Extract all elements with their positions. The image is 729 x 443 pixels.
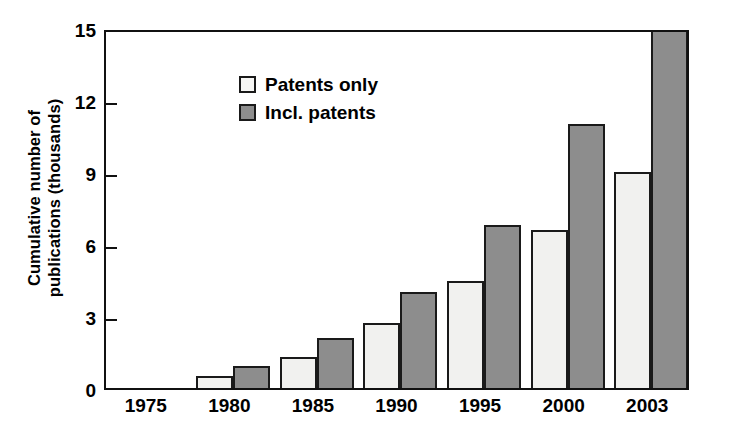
y-axis-title-line1: Cumulative number of bbox=[24, 110, 44, 286]
bar-group bbox=[607, 32, 689, 388]
bar-group bbox=[524, 32, 608, 388]
plot-area: Patents onlyIncl. patents bbox=[104, 30, 689, 390]
y-axis-tick-label: 15 bbox=[56, 21, 96, 40]
legend-label: Patents only bbox=[265, 75, 378, 94]
legend: Patents onlyIncl. patents bbox=[239, 72, 378, 124]
bar-groups bbox=[106, 32, 687, 388]
x-axis-tick-label: 1975 bbox=[101, 396, 191, 415]
bar bbox=[531, 230, 568, 388]
x-axis-tick-label: 1980 bbox=[184, 396, 274, 415]
bar bbox=[196, 376, 233, 388]
bar bbox=[568, 124, 605, 388]
bar-chart-figure: Cumulative number of publications (thous… bbox=[0, 0, 729, 443]
bar bbox=[484, 225, 521, 388]
x-axis-tick-label: 1995 bbox=[435, 396, 525, 415]
bar bbox=[280, 357, 317, 388]
y-axis-tick-label: 6 bbox=[56, 237, 96, 256]
legend-swatch-icon bbox=[239, 104, 256, 121]
x-axis-tick-label: 1985 bbox=[268, 396, 358, 415]
y-axis-tick-label: 3 bbox=[56, 309, 96, 328]
legend-item: Incl. patents bbox=[239, 100, 378, 124]
bar bbox=[363, 323, 400, 388]
x-axis-tick-label: 2000 bbox=[519, 396, 609, 415]
bar bbox=[651, 30, 688, 388]
bar bbox=[317, 338, 354, 388]
bar bbox=[400, 292, 437, 388]
y-axis-tick-label: 9 bbox=[56, 165, 96, 184]
bar-group bbox=[106, 32, 190, 388]
x-axis-tick-labels: 1975198019851990199520002003 bbox=[0, 396, 729, 426]
legend-item: Patents only bbox=[239, 72, 378, 96]
y-axis-tick-labels: 03691215 bbox=[52, 0, 96, 443]
bar bbox=[614, 172, 651, 388]
bar bbox=[447, 281, 484, 388]
x-axis-tick-label: 2003 bbox=[602, 396, 692, 415]
legend-label: Incl. patents bbox=[265, 103, 376, 122]
y-axis-tick-label: 12 bbox=[56, 93, 96, 112]
bar bbox=[233, 366, 270, 388]
x-axis-tick-label: 1990 bbox=[352, 396, 442, 415]
legend-swatch-icon bbox=[239, 76, 256, 93]
bar-group bbox=[440, 32, 524, 388]
